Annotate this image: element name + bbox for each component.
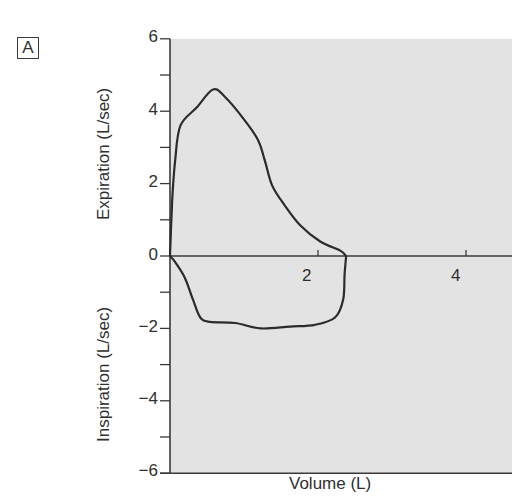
y-tick-label-neg6: −6 xyxy=(128,461,158,481)
y-tick-label-neg2: −2 xyxy=(128,317,158,337)
y-tick-label-4: 4 xyxy=(128,100,158,120)
y-tick-label-6: 6 xyxy=(128,27,158,47)
y-axis-label-inspiration: Inspiration (L/sec) xyxy=(94,307,114,442)
y-tick-label-0: 0 xyxy=(128,245,158,265)
y-tick-label-2: 2 xyxy=(128,172,158,192)
x-tick-label-4: 4 xyxy=(451,266,460,286)
x-axis-label: Volume (L) xyxy=(289,474,371,494)
y-axis-label-expiration: Expiration (L/sec) xyxy=(94,88,114,220)
flow-volume-plot xyxy=(0,0,532,502)
x-tick-label-2: 2 xyxy=(302,266,311,286)
y-tick-label-neg4: −4 xyxy=(128,389,158,409)
